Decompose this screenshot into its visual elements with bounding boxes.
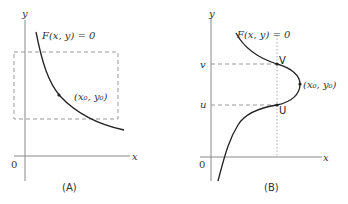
point-u-label: U [279, 105, 286, 116]
y-axis-label: y [21, 8, 28, 19]
x-axis-label: x [323, 152, 329, 163]
curve-label: F(x, y) = 0 [236, 29, 291, 40]
y-axis-label: y [208, 8, 215, 19]
point-x0-y0 [57, 93, 60, 96]
caption-a: (A) [62, 182, 77, 193]
panel-b: y x 0 F(x, y) = 0 (x₀, y₀) v u V U (B) [199, 8, 337, 193]
neighborhood-rectangle [14, 52, 118, 119]
curve [218, 33, 300, 181]
curve [36, 32, 124, 130]
tick-u-label: u [200, 99, 206, 110]
panel-a: y x 0 F(x, y) = 0 (x₀, y₀) (A) [11, 8, 138, 193]
point-label: (x₀, y₀) [303, 79, 337, 90]
origin-label: 0 [199, 159, 205, 170]
point-v-label: V [279, 55, 286, 66]
point-label: (x₀, y₀) [74, 91, 108, 102]
tick-v-label: v [200, 59, 206, 70]
origin-label: 0 [11, 159, 17, 170]
curve-label: F(x, y) = 0 [41, 30, 96, 41]
caption-b: (B) [264, 182, 279, 193]
point-x0-y0 [298, 82, 301, 85]
figure-canvas: y x 0 F(x, y) = 0 (x₀, y₀) (A) y x 0 F(x… [0, 0, 348, 204]
x-axis-label: x [132, 151, 138, 162]
